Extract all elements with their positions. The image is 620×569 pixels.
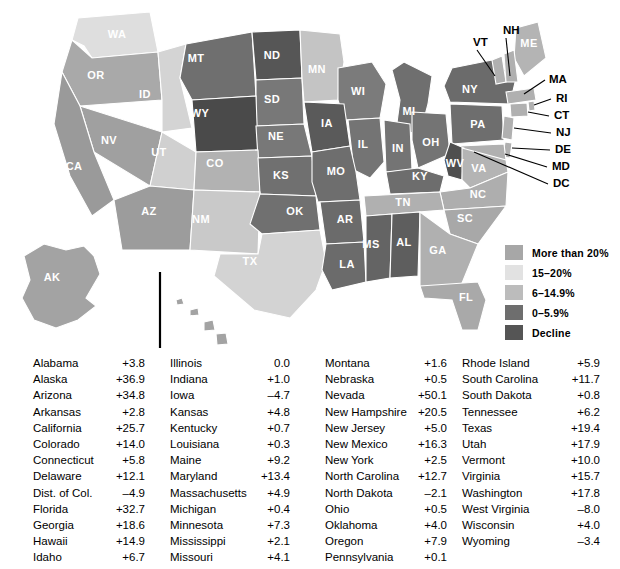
legend-item: 0–5.9% (505, 303, 617, 322)
legend-swatch (505, 285, 523, 300)
state-label-ar: AR (337, 213, 354, 225)
percent-change-cell: +13.4 (261, 468, 290, 484)
callout-label-nj: NJ (556, 126, 571, 138)
table-row: Colorado+14.0 (33, 436, 145, 452)
state-name-cell: Oregon (325, 533, 363, 549)
state-shape-ak[interactable] (22, 244, 100, 328)
state-label-ks: KS (273, 169, 289, 181)
percent-change-cell: +2.1 (267, 533, 290, 549)
state-shape-hi[interactable] (216, 333, 228, 345)
table-row: South Carolina+11.7 (462, 371, 600, 387)
table-row: Virginia+15.7 (462, 468, 600, 484)
percent-change-cell: +4.9 (267, 485, 290, 501)
legend-swatch (505, 305, 523, 320)
state-label-mo: MO (327, 165, 346, 177)
callout-label-de: DE (555, 143, 571, 155)
state-name-cell: Idaho (33, 549, 62, 565)
state-shape-hi[interactable] (204, 320, 215, 331)
state-shape-nj[interactable] (502, 116, 514, 140)
state-name-cell: Florida (33, 501, 68, 517)
table-row: Oregon+7.9 (325, 533, 447, 549)
percent-change-cell: +1.6 (424, 355, 447, 371)
state-label-co: CO (206, 157, 223, 169)
percent-change-cell: +50.1 (418, 387, 447, 403)
state-label-sc: SC (457, 212, 473, 224)
state-name-cell: Indiana (170, 371, 208, 387)
percent-change-cell: +4.8 (267, 404, 290, 420)
percent-change-cell: +19.4 (571, 420, 600, 436)
table-row: New York+2.5 (325, 452, 447, 468)
table-row: Connecticut+5.8 (33, 452, 145, 468)
table-row: Washington+17.8 (462, 485, 600, 501)
percent-change-cell: +11.7 (572, 371, 600, 387)
state-name-cell: South Dakota (462, 387, 532, 403)
state-name-cell: New Mexico (325, 436, 388, 452)
state-label-mi: MI (402, 105, 415, 117)
table-row: North Carolina+12.7 (325, 468, 447, 484)
percent-change-cell: +1.0 (267, 371, 290, 387)
legend-swatch (505, 325, 523, 340)
state-name-cell: Ohio (325, 501, 349, 517)
percent-change-cell: –2.1 (425, 485, 447, 501)
state-name-cell: Dist. of Col. (33, 485, 92, 501)
percent-change-cell: +7.9 (424, 533, 447, 549)
state-label-hi: HI (190, 313, 202, 325)
percent-change-cell: –4.9 (123, 485, 145, 501)
percent-change-cell: +10.0 (571, 452, 600, 468)
state-shape-wy[interactable] (192, 96, 258, 152)
table-row: Georgia+18.6 (33, 517, 145, 533)
state-name-cell: Mississippi (170, 533, 226, 549)
state-shape-ok[interactable] (250, 194, 320, 234)
percent-change-cell: +6.7 (122, 549, 145, 565)
state-name-cell: Utah (462, 436, 486, 452)
state-name-cell: Nebraska (325, 371, 374, 387)
state-name-cell: Nevada (325, 387, 365, 403)
table-row: Dist. of Col.–4.9 (33, 485, 145, 501)
percent-change-cell: +17.9 (571, 436, 600, 452)
state-shape-ct[interactable] (510, 103, 528, 117)
state-label-or: OR (87, 69, 104, 81)
state-label-sd: SD (264, 93, 280, 105)
state-label-ne: NE (268, 130, 284, 142)
state-name-cell: Delaware (33, 468, 82, 484)
percent-change-cell: +0.8 (577, 387, 600, 403)
state-shape-hi[interactable] (176, 298, 184, 305)
state-label-nc: NC (470, 188, 487, 200)
percent-change-cell: +34.8 (116, 387, 145, 403)
table-row: Massachusetts+4.9 (170, 485, 290, 501)
percent-change-cell: +0.3 (267, 436, 290, 452)
table-row: Nebraska+0.5 (325, 371, 447, 387)
percent-change-cell: +5.0 (424, 420, 447, 436)
table-row: Maryland+13.4 (170, 468, 290, 484)
state-label-tx: TX (243, 255, 258, 267)
callout-label-vt: VT (473, 36, 488, 48)
percent-change-cell: +20.5 (418, 404, 447, 420)
state-name-cell: Alaska (33, 371, 68, 387)
state-label-az: AZ (141, 205, 156, 217)
state-shape-fl[interactable] (420, 282, 486, 330)
state-name-cell: Hawaii (33, 533, 68, 549)
state-name-cell: New Jersey (325, 420, 385, 436)
percent-change-cell: +6.2 (577, 404, 600, 420)
percent-change-cell: +12.1 (116, 468, 145, 484)
state-name-cell: Louisiana (170, 436, 219, 452)
table-row: Indiana+1.0 (170, 371, 290, 387)
state-shape-ri[interactable] (528, 101, 535, 111)
percent-change-cell: 0.0 (274, 355, 290, 371)
state-label-mn: MN (308, 63, 326, 75)
state-shape-az[interactable] (114, 186, 194, 250)
legend-label: More than 20% (532, 247, 609, 259)
state-shape-co[interactable] (194, 150, 260, 192)
state-name-cell: Tennessee (462, 404, 518, 420)
state-name-cell: West Virginia (462, 501, 529, 517)
table-row: Pennsylvania+0.1 (325, 549, 447, 565)
percent-change-cell: +14.0 (116, 436, 145, 452)
percent-change-cell: +0.1 (424, 549, 447, 565)
state-shape-mt[interactable] (180, 32, 256, 100)
percent-change-cell: +4.1 (267, 549, 290, 565)
state-label-nm: NM (192, 213, 210, 225)
legend-item: Decline (505, 323, 617, 342)
state-label-oh: OH (422, 136, 439, 148)
percent-change-cell: +9.2 (267, 452, 290, 468)
legend-item: 15–20% (505, 263, 617, 282)
